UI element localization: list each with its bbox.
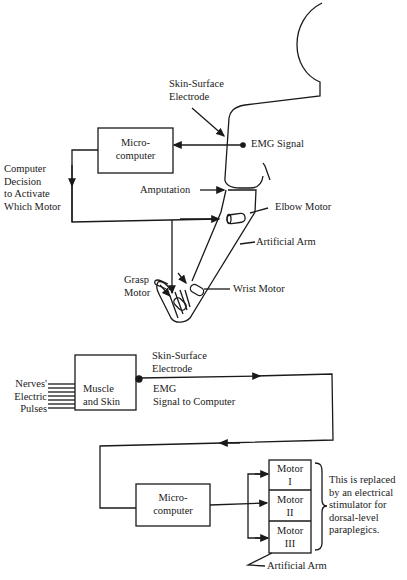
label-line: I xyxy=(269,476,311,489)
label-electrode-top: Skin-Surface Electrode xyxy=(169,78,224,103)
label-line: III xyxy=(269,538,311,551)
label-line: EMG xyxy=(153,383,235,396)
label-grasp-motor: Grasp Motor xyxy=(124,274,150,299)
label-line: Motor xyxy=(269,463,311,476)
label-electrode-bottom: Skin-Surface Electrode xyxy=(152,350,207,375)
label-line: Signal to Computer xyxy=(153,396,235,409)
label-line: Decision xyxy=(4,176,61,189)
label-line: Electrode xyxy=(169,91,224,104)
label-line: Grasp xyxy=(124,274,150,287)
label-line: II xyxy=(269,507,311,520)
label-line: to Activate xyxy=(4,188,61,201)
label-line: computer xyxy=(136,505,210,518)
nerve-pulse-lines xyxy=(48,384,75,408)
label-artificial-arm-top: Artificial Arm xyxy=(256,236,316,249)
label-artificial-arm-bottom: Artificial Arm xyxy=(267,560,327,573)
label-line: Nerves' xyxy=(9,378,47,391)
label-line: Skin-Surface xyxy=(152,350,207,363)
label-microcomputer-top: Micro- computer xyxy=(98,137,173,162)
label-replacement-note: This is replaced by an electrical stimul… xyxy=(329,474,395,537)
label-computer-decision: Computer Decision to Activate Which Moto… xyxy=(4,163,61,213)
label-line: Micro- xyxy=(136,492,210,505)
label-microcomputer-bottom: Micro- computer xyxy=(136,492,210,517)
label-line: dorsal-level xyxy=(329,512,395,525)
label-emg-to-computer: EMG Signal to Computer xyxy=(153,383,235,408)
label-line: Skin-Surface xyxy=(169,78,224,91)
label-amputation: Amputation xyxy=(140,184,190,197)
label-line: computer xyxy=(98,150,173,163)
label-line: Which Motor xyxy=(4,201,61,214)
label-line: by an electrical xyxy=(329,487,395,500)
artificial-arm-drawing xyxy=(155,190,256,322)
motor-3: Motor III xyxy=(269,525,311,550)
label-line: Electrode xyxy=(152,363,207,376)
motor-1: Motor I xyxy=(269,463,311,488)
label-line: and Skin xyxy=(83,396,120,409)
label-wrist-motor: Wrist Motor xyxy=(233,283,285,296)
label-line: Motor xyxy=(124,287,150,300)
label-nerves-pulses: Nerves' Electric Pulses xyxy=(9,378,47,416)
label-elbow-motor: Elbow Motor xyxy=(275,201,331,214)
label-line: paraplegics. xyxy=(329,524,395,537)
body-outline xyxy=(225,3,322,188)
label-line: Computer xyxy=(4,163,61,176)
label-line: Motor xyxy=(269,525,311,538)
label-muscle-skin: Muscle and Skin xyxy=(83,383,120,408)
label-emg-signal: EMG Signal xyxy=(251,138,304,151)
motor-2: Motor II xyxy=(269,494,311,519)
label-line: Muscle xyxy=(83,383,120,396)
label-line: stimulator for xyxy=(329,499,395,512)
label-line: Motor xyxy=(269,494,311,507)
label-line: Electric xyxy=(9,391,47,404)
label-line: Pulses xyxy=(9,403,47,416)
label-line: This is replaced xyxy=(329,474,395,487)
label-line: Micro- xyxy=(98,137,173,150)
